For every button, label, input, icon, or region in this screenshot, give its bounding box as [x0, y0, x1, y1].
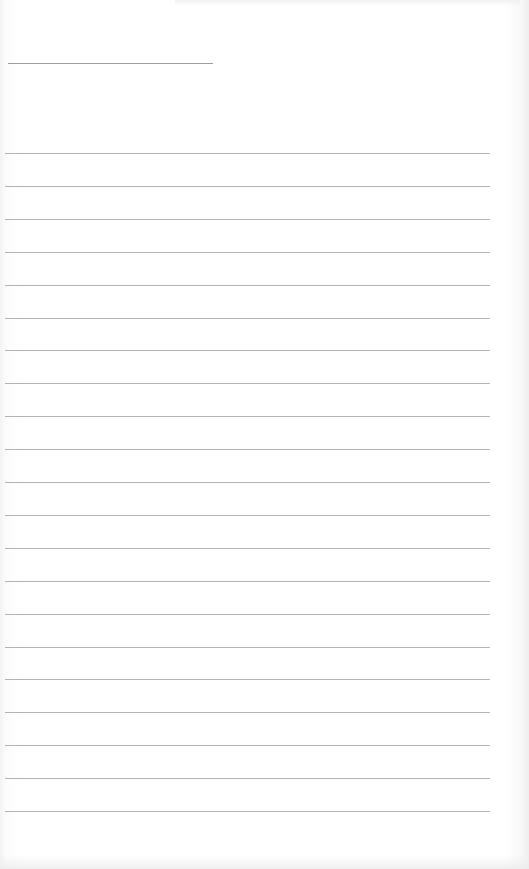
- writing-line: [5, 482, 490, 483]
- document-page: [0, 0, 529, 869]
- writing-line: [5, 548, 490, 549]
- writing-line: [5, 350, 490, 351]
- writing-line: [5, 811, 490, 812]
- writing-line: [5, 383, 490, 384]
- bleed-through-shadow-bottom: [0, 855, 529, 869]
- writing-line: [5, 153, 490, 154]
- writing-line: [5, 745, 490, 746]
- writing-line: [5, 186, 490, 187]
- writing-line: [5, 285, 490, 286]
- writing-line: [5, 581, 490, 582]
- bleed-through-shadow-top: [175, 0, 520, 6]
- header-rule: [8, 63, 213, 64]
- writing-line: [5, 614, 490, 615]
- writing-line: [5, 515, 490, 516]
- writing-line: [5, 252, 490, 253]
- writing-line: [5, 449, 490, 450]
- writing-line: [5, 712, 490, 713]
- writing-line: [5, 778, 490, 779]
- writing-line: [5, 219, 490, 220]
- writing-line: [5, 416, 490, 417]
- writing-line: [5, 647, 490, 648]
- writing-line: [5, 679, 490, 680]
- writing-line: [5, 318, 490, 319]
